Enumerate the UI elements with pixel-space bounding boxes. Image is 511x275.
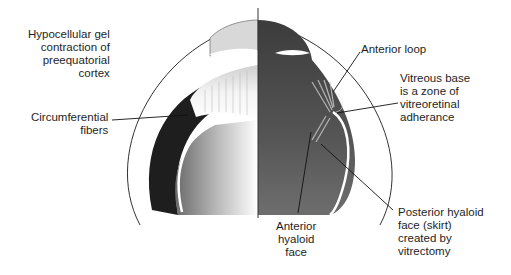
left-half-gel bbox=[149, 20, 258, 215]
right-half-gel bbox=[258, 20, 355, 215]
label-posterior-hyaloid-face: Posterior hyaloid face (skirt) created b… bbox=[398, 206, 484, 258]
label-hypocellular-gel: Hypocellular gel contraction of preequat… bbox=[28, 28, 110, 80]
label-vitreous-base: Vitreous base is a zone of vitreoretinal… bbox=[400, 72, 470, 124]
label-anterior-hyaloid-face: Anterior hyaloid face bbox=[276, 220, 316, 259]
label-anterior-loop: Anterior loop bbox=[361, 43, 426, 56]
leader-vitreous-base bbox=[337, 103, 398, 113]
label-circumferential-fibers: Circumferential fibers bbox=[31, 111, 108, 137]
leader-anterior-loop bbox=[333, 52, 360, 92]
